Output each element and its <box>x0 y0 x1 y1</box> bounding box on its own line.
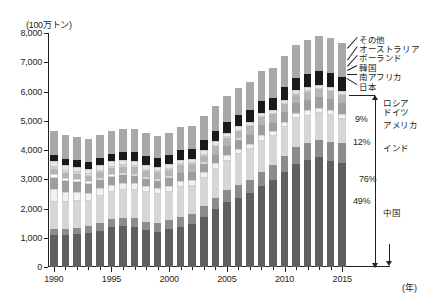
bar-segment-中国 <box>188 224 196 267</box>
legend-label-10: 中国 <box>383 206 400 218</box>
bar-segment-中国 <box>327 161 335 267</box>
y-tick-label: 4,000 <box>20 145 42 155</box>
bar-segment-その他 <box>281 56 289 88</box>
bar-2001[interactable] <box>177 127 185 267</box>
bar-segment-中国 <box>96 231 104 267</box>
bar-segment-南アフリカ <box>315 89 323 96</box>
bar-segment-オーストラリア <box>96 158 104 165</box>
y-tick <box>44 92 48 93</box>
legend-leader-line-0 <box>347 37 358 49</box>
bar-1990[interactable] <box>50 131 58 267</box>
x-tick <box>111 267 112 272</box>
x-tick <box>342 267 343 272</box>
bar-segment-インド <box>154 223 162 232</box>
x-tick <box>296 267 297 270</box>
bar-1995[interactable] <box>108 131 116 267</box>
bar-2008[interactable] <box>258 71 266 267</box>
bar-2010[interactable] <box>281 56 289 267</box>
y-tick <box>44 209 48 210</box>
bar-segment-オーストラリア <box>315 71 323 85</box>
bar-segment-アメリカ <box>177 187 185 217</box>
bar-1999[interactable] <box>154 136 162 268</box>
bar-segment-南アフリカ <box>212 146 220 153</box>
bar-1991[interactable] <box>62 135 70 267</box>
bar-segment-インド <box>223 190 231 202</box>
bar-segment-ロシア <box>304 100 312 110</box>
bar-segment-オーストラリア <box>246 110 254 122</box>
bar-segment-その他 <box>50 131 58 155</box>
bar-segment-オーストラリア <box>131 152 139 160</box>
bar-2002[interactable] <box>188 126 196 267</box>
bar-segment-オーストラリア <box>258 101 266 113</box>
bar-2011[interactable] <box>292 45 300 267</box>
bar-2006[interactable] <box>235 88 243 267</box>
y-tick-label: 8,000 <box>20 28 42 38</box>
bar-segment-ロシア <box>212 155 220 163</box>
bar-segment-ドイツ <box>73 192 81 201</box>
bar-segment-ドイツ <box>96 188 104 196</box>
bar-segment-その他 <box>246 82 254 110</box>
bar-segment-中国 <box>281 172 289 267</box>
bar-segment-オーストラリア <box>108 154 116 161</box>
bar-2014[interactable] <box>327 37 335 267</box>
bar-segment-その他 <box>338 43 346 78</box>
bar-2015[interactable] <box>338 43 346 267</box>
bar-segment-ドイツ <box>85 193 93 201</box>
bar-segment-中国 <box>108 227 116 267</box>
bar-segment-オーストラリア <box>338 77 346 91</box>
bar-segment-南アフリカ <box>258 117 266 124</box>
x-tick <box>204 267 205 270</box>
bar-segment-アメリカ <box>246 149 254 179</box>
bar-segment-インド <box>315 140 323 158</box>
x-tick <box>319 267 320 270</box>
bar-1996[interactable] <box>119 129 127 267</box>
bar-segment-南アフリカ <box>338 95 346 102</box>
legend-label-0: その他 <box>359 33 385 45</box>
plot-area: 01,0002,0003,0004,0005,0006,0007,0008,00… <box>48 33 348 267</box>
bar-2000[interactable] <box>165 133 173 267</box>
bar-segment-その他 <box>62 135 70 159</box>
x-tick-label: 2010 <box>275 274 294 284</box>
bar-1994[interactable] <box>96 135 104 267</box>
bar-segment-南アフリカ <box>281 104 289 111</box>
bar-1998[interactable] <box>142 133 150 267</box>
bar-segment-アメリカ <box>258 141 266 172</box>
y-tick-label: 1,000 <box>20 233 42 243</box>
bar-2003[interactable] <box>200 116 208 267</box>
legend-leader-line-4 <box>347 74 357 75</box>
bar-1992[interactable] <box>73 137 81 267</box>
bar-segment-中国 <box>177 227 185 267</box>
bar-segment-オーストラリア <box>165 155 173 164</box>
bar-segment-中国 <box>200 217 208 267</box>
bar-2004[interactable] <box>212 106 220 267</box>
bar-2009[interactable] <box>269 68 277 267</box>
x-tick <box>77 267 78 270</box>
bar-2013[interactable] <box>315 36 323 267</box>
bar-2005[interactable] <box>223 96 231 267</box>
bar-1993[interactable] <box>85 139 93 267</box>
bar-segment-アメリカ <box>315 113 323 139</box>
bar-2012[interactable] <box>304 40 312 267</box>
annotation-percent-2: 76% <box>359 174 376 184</box>
bar-2007[interactable] <box>246 82 254 267</box>
bar-segment-その他 <box>108 131 116 154</box>
bar-segment-オーストラリア <box>212 131 220 142</box>
bar-segment-ロシア <box>131 176 139 183</box>
bar-segment-中国 <box>50 235 58 267</box>
x-axis-extension <box>348 266 390 267</box>
bar-segment-オーストラリア <box>119 152 127 160</box>
bar-segment-インド <box>212 198 220 209</box>
x-tick <box>54 267 55 272</box>
bar-segment-南アフリカ <box>246 126 254 133</box>
bar-segment-アメリカ <box>269 136 277 164</box>
bar-segment-アメリカ <box>235 154 243 185</box>
bar-segment-アメリカ <box>292 118 300 147</box>
legend-leader-line-1 <box>347 46 358 61</box>
bar-1997[interactable] <box>131 129 139 267</box>
bar-segment-ロシア <box>142 179 150 186</box>
bar-segment-インド <box>142 222 150 231</box>
bar-segment-ロシア <box>235 140 243 149</box>
bar-segment-その他 <box>177 127 185 150</box>
bar-segment-オーストラリア <box>154 158 162 167</box>
bar-segment-ロシア <box>119 175 127 183</box>
